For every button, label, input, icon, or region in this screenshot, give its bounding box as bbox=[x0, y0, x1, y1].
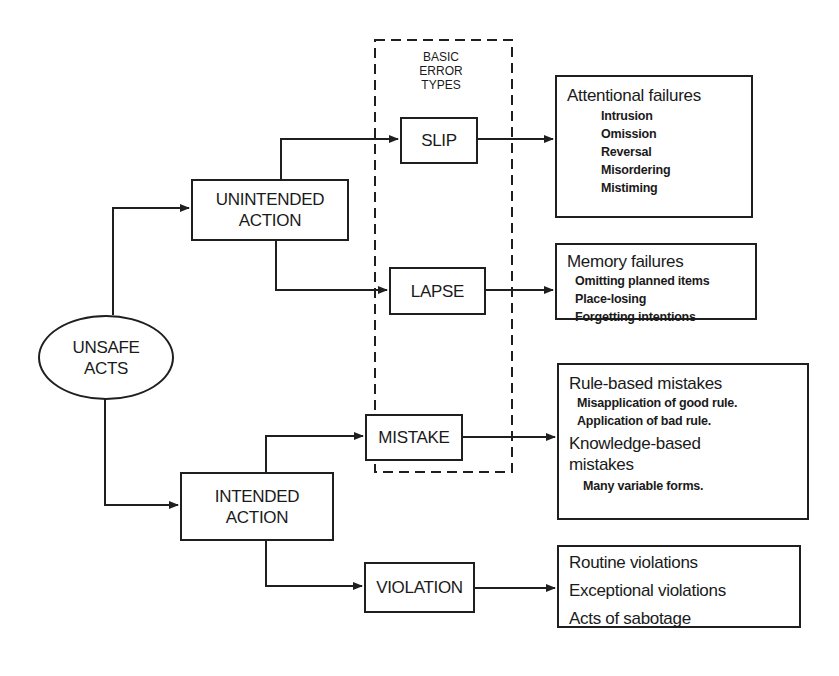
lapse-node: LAPSE bbox=[389, 267, 486, 315]
mistake-node: MISTAKE bbox=[365, 414, 463, 461]
header-line-1: BASIC bbox=[400, 50, 482, 64]
violations-box: Routine violations Exceptional violation… bbox=[557, 545, 801, 628]
violation-item: Exceptional violations bbox=[569, 577, 789, 605]
header-line-3: TYPES bbox=[400, 78, 482, 92]
violation-label: VIOLATION bbox=[376, 577, 463, 598]
memory-failures-box: Memory failures Omitting planned items P… bbox=[555, 243, 757, 320]
memory-failures-title: Memory failures bbox=[567, 251, 745, 272]
memory-item: Omitting planned items bbox=[575, 272, 745, 290]
knowledge-based-title-1: Knowledge-based bbox=[569, 433, 797, 454]
memory-item: Forgetting intentions bbox=[575, 308, 745, 326]
unsafe-acts-node: UNSAFE ACTS bbox=[38, 315, 174, 400]
slip-node: SLIP bbox=[400, 117, 478, 164]
rule-based-title: Rule-based mistakes bbox=[569, 373, 797, 394]
mistake-label: MISTAKE bbox=[378, 427, 449, 448]
knowledge-based-title-2: mistakes bbox=[569, 454, 797, 475]
unintended-action-label-1: UNINTENDED bbox=[216, 189, 324, 210]
unintended-action-node: UNINTENDED ACTION bbox=[191, 179, 349, 241]
rule-based-item: Misapplication of good rule. bbox=[577, 394, 797, 412]
attentional-item: Omission bbox=[601, 125, 741, 143]
attentional-failures-box: Attentional failures Intrusion Omission … bbox=[555, 75, 753, 218]
attentional-item: Intrusion bbox=[601, 107, 741, 125]
header-line-2: ERROR bbox=[400, 64, 482, 78]
basic-error-types-group bbox=[375, 40, 512, 472]
lapse-label: LAPSE bbox=[411, 281, 464, 302]
intended-action-label-1: INTENDED bbox=[215, 486, 300, 507]
mistakes-box: Rule-based mistakes Misapplication of go… bbox=[557, 363, 809, 520]
intended-action-node: INTENDED ACTION bbox=[180, 472, 334, 541]
memory-item: Place-losing bbox=[575, 290, 745, 308]
basic-error-types-header: BASIC ERROR TYPES bbox=[400, 50, 482, 92]
unsafe-acts-label-1: UNSAFE bbox=[72, 337, 139, 358]
intended-action-label-2: ACTION bbox=[215, 507, 300, 528]
rule-based-item: Application of bad rule. bbox=[577, 412, 797, 430]
unintended-action-label-2: ACTION bbox=[216, 210, 324, 231]
unsafe-acts-label-2: ACTS bbox=[72, 358, 139, 379]
violation-item: Routine violations bbox=[569, 549, 789, 577]
slip-label: SLIP bbox=[421, 130, 457, 151]
attentional-failures-title: Attentional failures bbox=[567, 85, 741, 106]
attentional-item: Mistiming bbox=[601, 179, 741, 197]
violation-item: Acts of sabotage bbox=[569, 605, 789, 633]
attentional-item: Reversal bbox=[601, 143, 741, 161]
knowledge-based-item: Many variable forms. bbox=[583, 477, 797, 495]
attentional-item: Misordering bbox=[601, 161, 741, 179]
violation-node: VIOLATION bbox=[364, 562, 475, 613]
